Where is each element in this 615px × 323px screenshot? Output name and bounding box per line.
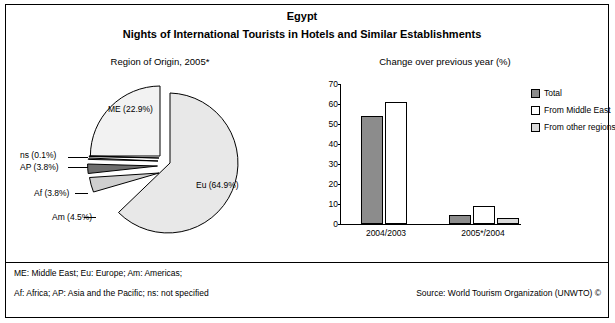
legend-item-other-regions: From other regions xyxy=(531,122,615,132)
bar-chart-title: Change over previous year (%) xyxy=(300,56,590,67)
xtick-2004-2003: 2004/2003 xyxy=(366,228,406,238)
bar-total-2004 xyxy=(361,116,383,224)
pie-slice-af xyxy=(88,164,158,174)
footer-divider xyxy=(6,262,608,263)
bar-total-2005 xyxy=(449,215,471,224)
pie-slice-me xyxy=(90,86,160,156)
leader-line-am xyxy=(84,217,96,218)
pie-label-ns: ns (0.1%) xyxy=(20,150,56,160)
legend-label-total: Total xyxy=(544,88,562,98)
legend-label-middle-east: From Middle East xyxy=(544,105,611,115)
legend-label-other-regions: From other regions xyxy=(544,122,615,132)
pie-chart-title: Region of Origin, 2005* xyxy=(20,56,300,67)
footnote-line-1: ME: Middle East; Eu: Europe; Am: America… xyxy=(14,268,182,278)
pie-label-me: ME (22.9%) xyxy=(108,104,153,114)
pie-label-af: Af (3.8%) xyxy=(34,188,69,198)
bar-chart-legend: Total From Middle East From other region… xyxy=(531,88,615,139)
bar-middle-east-2004 xyxy=(385,102,407,224)
legend-swatch-total-icon xyxy=(531,89,540,98)
leader-line-af xyxy=(75,193,88,194)
legend-item-middle-east: From Middle East xyxy=(531,105,615,115)
pie-chart: ME (22.9%) Eu (64.9%) ns (0.1%) AP (3.8%… xyxy=(20,72,300,252)
legend-swatch-other-regions-icon xyxy=(531,123,540,132)
pie-chart-svg xyxy=(20,72,300,252)
leader-line-ns xyxy=(68,157,88,158)
page-title: Egypt xyxy=(0,10,604,22)
source-note: Source: World Tourism Organization (UNWT… xyxy=(416,288,601,298)
screenshot-root: Egypt Nights of International Tourists i… xyxy=(0,0,615,323)
leader-line-ap xyxy=(68,167,88,168)
footnote-line-2: Af: Africa; AP: Asia and the Pacific; ns… xyxy=(14,288,209,298)
bar-other-regions-2005 xyxy=(497,218,519,224)
legend-swatch-middle-east-icon xyxy=(531,106,540,115)
pie-label-eu: Eu (64.9%) xyxy=(196,180,239,190)
bar-middle-east-2005 xyxy=(473,206,495,224)
bar-plot-area: 0 10 20 30 40 50 60 70 xyxy=(340,84,521,225)
page-subtitle: Nights of International Tourists in Hote… xyxy=(0,28,604,40)
xtick-2005-2004: 2005*/2004 xyxy=(461,228,505,238)
legend-item-total: Total xyxy=(531,88,615,98)
bar-chart: 0 10 20 30 40 50 60 70 xyxy=(305,76,590,251)
pie-label-ap: AP (3.8%) xyxy=(20,162,59,172)
pie-slice-ap xyxy=(88,158,158,161)
